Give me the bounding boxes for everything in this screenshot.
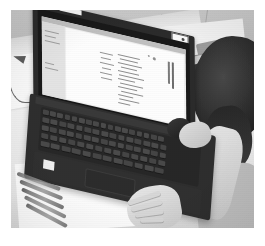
- keyboard-key[interactable]: [113, 158, 122, 165]
- keyboard-key[interactable]: [59, 137, 67, 144]
- keyboard-key[interactable]: [50, 135, 58, 142]
- window-sidebar[interactable]: [42, 21, 66, 99]
- document-marker-icon-small: [148, 55, 150, 57]
- keyboard-key[interactable]: [117, 142, 124, 148]
- keyboard-key[interactable]: [41, 141, 50, 148]
- keyboard-key[interactable]: [72, 116, 78, 122]
- keyboard-key[interactable]: [93, 129, 100, 135]
- keyboard-key[interactable]: [100, 139, 107, 145]
- keyboard-key[interactable]: [67, 123, 74, 129]
- keyboard-key[interactable]: [82, 150, 91, 157]
- laptop-touchpad[interactable]: [84, 168, 135, 198]
- keyboard-key[interactable]: [158, 160, 166, 167]
- keyboard-key[interactable]: [113, 149, 121, 156]
- keyboard-key[interactable]: [84, 135, 91, 141]
- keyboard-key[interactable]: [79, 118, 85, 124]
- keyboard-key[interactable]: [115, 126, 121, 132]
- keyboard-key[interactable]: [108, 124, 114, 130]
- keyboard-key[interactable]: [93, 153, 102, 160]
- photo-white-border: [11, 10, 254, 228]
- keyboard-key[interactable]: [135, 138, 142, 144]
- keyboard-key[interactable]: [109, 140, 116, 146]
- keyboard-key[interactable]: [159, 152, 166, 158]
- document-marker-icon: [153, 57, 156, 61]
- keyboard-key[interactable]: [50, 127, 57, 133]
- keyboard-key[interactable]: [100, 123, 106, 129]
- keyboard-key[interactable]: [58, 129, 65, 135]
- keyboard-key[interactable]: [64, 114, 70, 120]
- keyboard-key[interactable]: [104, 147, 112, 154]
- keyboard-key[interactable]: [61, 146, 70, 153]
- keyboard-key[interactable]: [158, 136, 164, 142]
- keyboard-key[interactable]: [134, 146, 141, 152]
- keyboard-key[interactable]: [93, 121, 99, 127]
- keyboard-key[interactable]: [103, 155, 112, 162]
- keyboard-key[interactable]: [155, 167, 164, 174]
- keyboard-key[interactable]: [92, 137, 99, 143]
- keyboard-key[interactable]: [126, 137, 133, 143]
- document-heading: [172, 62, 174, 89]
- pens-on-desk: [14, 158, 89, 221]
- keyboard-key[interactable]: [122, 152, 130, 159]
- keyboard-key[interactable]: [77, 141, 85, 148]
- keyboard-key[interactable]: [42, 117, 49, 123]
- keyboard-key[interactable]: [151, 134, 157, 140]
- document-body-text: [118, 54, 146, 113]
- keyboard-key[interactable]: [151, 150, 158, 156]
- keyboard-key[interactable]: [145, 165, 154, 172]
- keyboard-key[interactable]: [86, 143, 94, 150]
- keyboard-key[interactable]: [84, 127, 91, 133]
- keyboard-key[interactable]: [129, 129, 135, 135]
- keyboard-key[interactable]: [51, 143, 60, 150]
- keyboard-key[interactable]: [149, 158, 157, 165]
- keyboard-key[interactable]: [57, 113, 63, 119]
- keyboard-key[interactable]: [75, 133, 82, 139]
- keyboard-key[interactable]: [124, 160, 133, 167]
- keyboard-key[interactable]: [43, 109, 49, 115]
- keyboard-key[interactable]: [118, 135, 125, 141]
- keyboard-key[interactable]: [134, 162, 143, 169]
- keyboard-key[interactable]: [144, 133, 150, 139]
- keyboard-key[interactable]: [67, 131, 74, 137]
- keyboard-key[interactable]: [68, 139, 76, 146]
- keyboard-key[interactable]: [72, 148, 81, 155]
- keyboard-key[interactable]: [142, 148, 149, 154]
- document-side-text: [100, 52, 116, 86]
- keyboard-key[interactable]: [41, 133, 49, 140]
- keyboard-key[interactable]: [42, 125, 49, 131]
- keyboard-key[interactable]: [126, 144, 133, 150]
- document-subheading: [168, 61, 170, 84]
- keyboard-key[interactable]: [160, 144, 167, 150]
- keyboard-key[interactable]: [136, 131, 142, 137]
- photo-page: [0, 0, 265, 246]
- keyboard-key[interactable]: [51, 119, 58, 125]
- keyboard-key[interactable]: [140, 156, 148, 163]
- keyboard-key[interactable]: [50, 111, 56, 117]
- keyboard-key[interactable]: [101, 131, 108, 137]
- keyboard-key[interactable]: [95, 145, 103, 152]
- keyboard-key[interactable]: [86, 119, 92, 125]
- keyboard-key[interactable]: [151, 142, 158, 148]
- keyboard-key[interactable]: [59, 121, 66, 127]
- keyboard-key[interactable]: [109, 133, 116, 139]
- keyboard-key[interactable]: [76, 125, 83, 131]
- keyboard-key[interactable]: [143, 140, 150, 146]
- keyboard-key[interactable]: [122, 128, 128, 134]
- photograph: [11, 10, 254, 228]
- keyboard-key[interactable]: [131, 154, 139, 161]
